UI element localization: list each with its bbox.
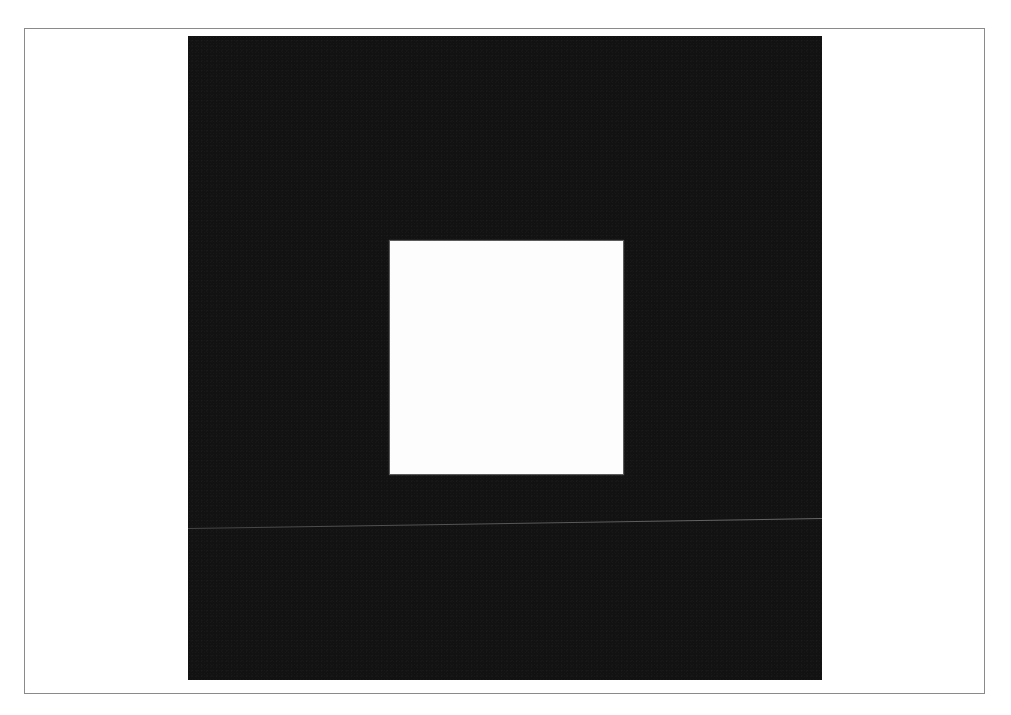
white-square: [390, 241, 623, 474]
